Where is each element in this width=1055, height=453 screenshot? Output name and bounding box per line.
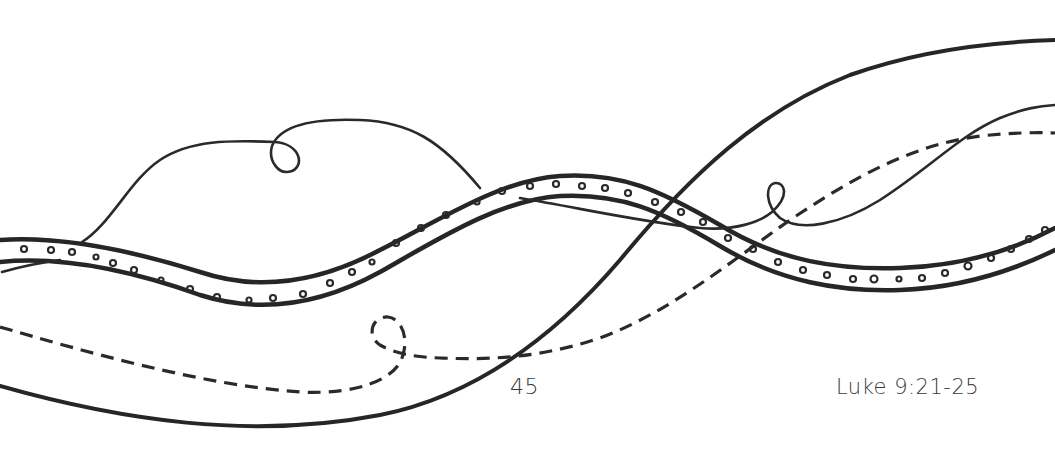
- page-number: 45: [510, 374, 539, 399]
- coloring-page: 45 Luke 9:21-25: [0, 0, 1055, 453]
- thin-loop-line-right: [520, 105, 1055, 229]
- dotted-band-lower-edge: [0, 196, 1055, 305]
- thick-sweep-line: [0, 40, 1055, 426]
- dashed-loop-line: [0, 133, 1055, 393]
- scripture-reference: Luke 9:21-25: [836, 375, 979, 399]
- dotted-band-upper-edge: [0, 175, 1055, 282]
- thin-loop-line-left: [82, 120, 480, 242]
